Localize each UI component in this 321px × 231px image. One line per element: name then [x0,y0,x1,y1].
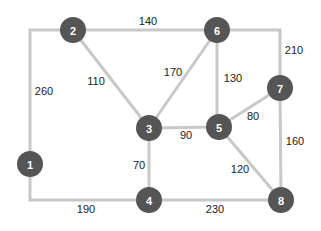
node-label: 2 [70,25,76,37]
node-label: 7 [277,83,283,95]
edge-weight-5-8: 120 [231,163,249,175]
node-label: 8 [278,195,284,207]
edge-weight-7-8: 160 [286,135,304,147]
node-2: 2 [60,17,86,43]
edge-weight-3-4: 70 [133,159,145,171]
node-1: 1 [17,151,43,177]
edge-weight-2-3: 110 [87,75,105,87]
edge-7-8 [280,88,281,200]
edge-weights-layer: 260140110170130210907080120160190230 [35,15,304,215]
node-label: 5 [216,122,222,134]
edge-weight-1-4: 190 [77,203,95,215]
edge-weight-2-1: 260 [35,85,53,97]
edge-weight-3-5: 90 [180,129,192,141]
node-7: 7 [267,75,293,101]
edge-2-1 [30,30,73,164]
node-label: 6 [214,25,220,37]
node-6: 6 [204,17,230,43]
node-5: 5 [206,114,232,140]
edge-weight-5-7: 80 [247,110,259,122]
edge-weight-6-7: 210 [285,44,303,56]
edge-weight-6-3: 170 [164,66,182,78]
node-3: 3 [136,115,162,141]
edge-2-3 [73,30,149,128]
node-label: 4 [146,195,153,207]
edge-5-8 [219,127,281,200]
edge-weight-2-6: 140 [139,15,157,27]
edge-weight-4-8: 230 [206,203,224,215]
graph-diagram: 260140110170130210907080120160190230 123… [0,0,321,231]
edge-6-3 [149,30,217,128]
node-8: 8 [268,187,294,213]
edge-1-4 [30,164,149,200]
node-label: 3 [146,123,152,135]
node-4: 4 [136,187,162,213]
node-label: 1 [27,159,33,171]
edge-weight-6-5: 130 [224,72,242,84]
